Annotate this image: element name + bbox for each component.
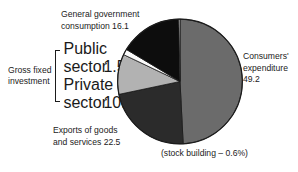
gfi-private-sector-name: Private sector [63, 76, 101, 112]
pie-svg [117, 18, 243, 145]
label-exports-line2: and services 22.5 [53, 137, 120, 149]
gfi-public-sector-line1: Public [63, 40, 101, 58]
label-consumers-line2: expenditure [243, 63, 289, 75]
pie-slice-consumers-expenditure [180, 19, 242, 144]
left-square-bracket-icon [55, 50, 60, 102]
label-consumers-expenditure: Consumers' expenditure 49.2 [243, 51, 289, 86]
pie-chart-figure: General government consumption 16.1 Gros… [0, 0, 298, 172]
gfi-public-sector-name: Public sector [63, 40, 101, 76]
gross-fixed-investment-group: Gross fixed investment Public sector 1.5… [8, 40, 135, 112]
annotation-stock-building: (stock building – 0.6%) [161, 148, 248, 160]
gfi-private-sector-line1: Private [63, 76, 101, 94]
label-gross-fixed-investment-line2: investment [8, 76, 51, 88]
label-consumers-line1: Consumers' [243, 51, 289, 63]
label-exports-line1: Exports of goods [53, 125, 120, 137]
label-gross-fixed-investment: Gross fixed investment [8, 65, 55, 88]
pie-slices [118, 19, 243, 144]
gfi-public-sector-line2: sector [63, 58, 101, 76]
gfi-private-sector-line2: sector [63, 94, 101, 112]
label-gross-fixed-investment-line1: Gross fixed [8, 65, 51, 77]
label-consumers-line3: 49.2 [243, 74, 289, 86]
label-exports-goods-services: Exports of goods and services 22.5 [53, 125, 120, 148]
pie-graphic [117, 18, 243, 145]
